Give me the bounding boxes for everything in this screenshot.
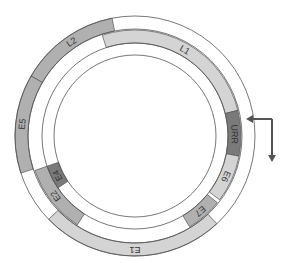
segment-l1: [102, 30, 238, 114]
segment-label-e1: E1: [129, 245, 140, 255]
ring-outline-3: [54, 55, 216, 217]
segment-label-e5: E5: [17, 118, 28, 130]
genome-circle-diagram: L2E5E1L1URRE6E7E2E4: [0, 0, 292, 263]
segments-layer: [15, 18, 241, 256]
segment-label-urr: URR: [229, 124, 239, 144]
promoter-arrow-icon: [246, 115, 276, 162]
ring-outline-2: [42, 43, 228, 229]
segment-l2: [31, 18, 115, 82]
